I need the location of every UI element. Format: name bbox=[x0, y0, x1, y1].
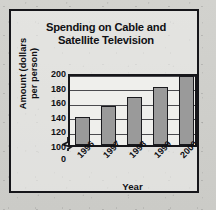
bar-1998 bbox=[127, 97, 142, 145]
bar-series bbox=[70, 76, 195, 145]
y-tick-label-180: 180 bbox=[51, 84, 66, 93]
y-axis-title-line-1: Amount (dollars bbox=[18, 26, 29, 122]
y-tick-label-140: 140 bbox=[51, 113, 66, 122]
y-tick-label-160: 160 bbox=[51, 99, 66, 108]
chart-frame: Spending on Cable and Satellite Televisi… bbox=[9, 9, 199, 193]
chart-title: Spending on Cable and Satellite Televisi… bbox=[23, 21, 189, 47]
chart-page: Spending on Cable and Satellite Televisi… bbox=[0, 0, 216, 210]
chart-title-line-1: Spending on Cable and bbox=[23, 21, 189, 34]
y-tick-label-120: 120 bbox=[51, 128, 66, 137]
chart-title-line-2: Satellite Television bbox=[23, 34, 189, 47]
plot-area bbox=[68, 74, 197, 147]
y-tick-label-200: 200 bbox=[51, 70, 66, 79]
bar-1999 bbox=[153, 87, 168, 145]
x-axis-title: Year bbox=[68, 181, 197, 192]
y-tick-label-0: 0 bbox=[61, 155, 66, 164]
x-axis-tick-labels: 19961997199819992000 bbox=[68, 150, 197, 182]
bar-2000 bbox=[179, 76, 194, 145]
